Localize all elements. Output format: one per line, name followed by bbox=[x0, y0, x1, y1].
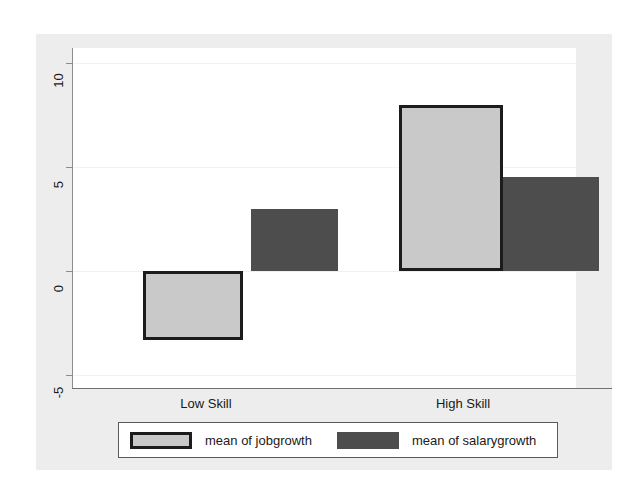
y-axis-line bbox=[72, 48, 73, 389]
legend-swatch-salarygrowth-icon bbox=[337, 432, 399, 449]
gridline-neg5 bbox=[73, 375, 576, 376]
bar-high-skill-jobgrowth bbox=[399, 105, 503, 271]
y-tick-mark-0 bbox=[66, 271, 73, 272]
legend-item-salarygrowth: mean of salarygrowth bbox=[337, 423, 536, 457]
legend-swatch-jobgrowth-icon bbox=[130, 432, 192, 449]
y-tick-mark-5 bbox=[66, 167, 73, 168]
chart-figure: 10 5 0 -5 Low Skill High Skill mean of j… bbox=[36, 34, 612, 470]
x-category-label-low-skill: Low Skill bbox=[151, 396, 261, 411]
x-axis-line bbox=[72, 388, 612, 389]
plot-area bbox=[73, 48, 576, 388]
legend-label-jobgrowth: mean of jobgrowth bbox=[205, 433, 312, 448]
y-tick-mark-10 bbox=[66, 63, 73, 64]
chart-legend: mean of jobgrowth mean of salarygrowth bbox=[118, 422, 558, 458]
y-tick-label-neg5: -5 bbox=[52, 376, 65, 410]
bar-low-skill-salarygrowth bbox=[251, 209, 338, 271]
y-tick-mark-neg5 bbox=[66, 375, 73, 376]
bar-low-skill-jobgrowth bbox=[143, 271, 243, 340]
bar-high-skill-salarygrowth bbox=[503, 177, 599, 271]
y-tick-label-10: 10 bbox=[52, 64, 65, 98]
gridline-10 bbox=[73, 63, 576, 64]
legend-label-salarygrowth: mean of salarygrowth bbox=[412, 433, 536, 448]
y-tick-label-0: 0 bbox=[52, 272, 65, 306]
y-tick-label-5: 5 bbox=[52, 168, 65, 202]
legend-item-jobgrowth: mean of jobgrowth bbox=[130, 423, 312, 457]
x-category-label-high-skill: High Skill bbox=[408, 396, 518, 411]
